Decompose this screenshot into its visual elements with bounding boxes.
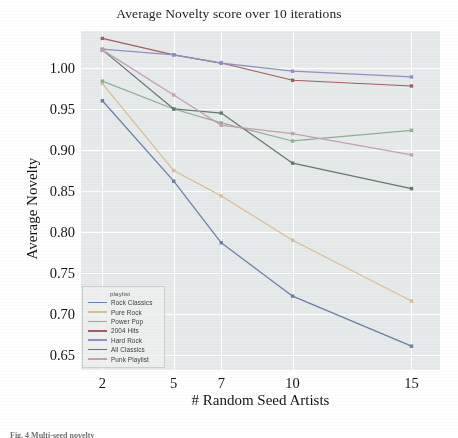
legend-color-swatch bbox=[88, 302, 107, 304]
legend-color-swatch bbox=[88, 349, 107, 351]
legend-item-label: Rock Classics bbox=[111, 299, 152, 306]
data-point-marker bbox=[220, 124, 223, 127]
data-point-marker bbox=[410, 153, 413, 156]
legend-item-label: All Classics bbox=[111, 346, 145, 353]
data-point-marker bbox=[291, 132, 294, 135]
legend-item-punk-playlist[interactable]: Punk Playlist bbox=[85, 354, 161, 363]
x-tick-label: 2 bbox=[82, 375, 122, 392]
chart-title: Average Novelty score over 10 iterations bbox=[0, 6, 458, 22]
legend-entries: Rock ClassicsPure RockPower Pop2004 Hits… bbox=[85, 298, 161, 364]
data-point-marker bbox=[172, 169, 175, 172]
legend-item-pure-rock[interactable]: Pure Rock bbox=[85, 307, 161, 316]
data-point-marker bbox=[101, 48, 104, 51]
legend-item-2004-hits[interactable]: 2004 Hits bbox=[85, 326, 161, 335]
y-tick-label: 1.00 bbox=[15, 59, 75, 76]
legend-item-hard-rock[interactable]: Hard Rock bbox=[85, 336, 161, 345]
y-axis-label: Average Novelty bbox=[24, 109, 41, 309]
data-point-marker bbox=[410, 75, 413, 78]
x-axis-label: # Random Seed Artists bbox=[81, 392, 440, 409]
legend: playlist Rock ClassicsPure RockPower Pop… bbox=[82, 286, 165, 368]
legend-item-power-pop[interactable]: Power Pop bbox=[85, 317, 161, 326]
data-point-marker bbox=[410, 345, 413, 348]
data-point-marker bbox=[291, 70, 294, 73]
data-point-marker bbox=[291, 79, 294, 82]
legend-color-swatch bbox=[88, 339, 107, 341]
data-point-marker bbox=[101, 79, 104, 82]
data-point-marker bbox=[101, 99, 104, 102]
legend-color-swatch bbox=[88, 311, 107, 313]
series-line bbox=[102, 49, 411, 77]
data-point-marker bbox=[410, 299, 413, 302]
x-tick-label: 5 bbox=[154, 375, 194, 392]
series-line bbox=[102, 81, 411, 141]
legend-item-label: Hard Rock bbox=[111, 337, 142, 344]
legend-item-label: 2004 Hits bbox=[111, 327, 139, 334]
legend-color-swatch bbox=[88, 358, 107, 360]
legend-title: playlist bbox=[110, 290, 161, 297]
x-tick-label: 15 bbox=[391, 375, 431, 392]
data-point-marker bbox=[291, 294, 294, 297]
legend-item-label: Pure Rock bbox=[111, 309, 142, 316]
y-tick-label: 0.65 bbox=[15, 347, 75, 364]
data-point-marker bbox=[172, 53, 175, 56]
data-point-marker bbox=[220, 111, 223, 114]
data-point-marker bbox=[410, 187, 413, 190]
data-point-marker bbox=[291, 161, 294, 164]
legend-item-label: Power Pop bbox=[111, 318, 143, 325]
data-point-marker bbox=[220, 61, 223, 64]
legend-item-label: Punk Playlist bbox=[111, 356, 149, 363]
legend-color-swatch bbox=[88, 330, 107, 332]
data-point-marker bbox=[410, 84, 413, 87]
x-tick-label: 7 bbox=[201, 375, 241, 392]
data-point-marker bbox=[220, 241, 223, 244]
figure-caption: Fig. 4 Multi-seed novelty bbox=[10, 431, 94, 438]
series-line bbox=[102, 84, 411, 302]
legend-color-swatch bbox=[88, 321, 107, 323]
data-point-marker bbox=[172, 107, 175, 110]
data-point-marker bbox=[410, 129, 413, 132]
data-point-marker bbox=[172, 180, 175, 183]
data-point-marker bbox=[101, 37, 104, 40]
data-point-marker bbox=[291, 239, 294, 242]
series-line bbox=[102, 50, 411, 189]
data-point-marker bbox=[291, 139, 294, 142]
data-point-marker bbox=[220, 194, 223, 197]
legend-item-all-classics[interactable]: All Classics bbox=[85, 345, 161, 354]
legend-item-rock-classics[interactable]: Rock Classics bbox=[85, 298, 161, 307]
data-point-marker bbox=[172, 93, 175, 96]
x-tick-label: 10 bbox=[273, 375, 313, 392]
